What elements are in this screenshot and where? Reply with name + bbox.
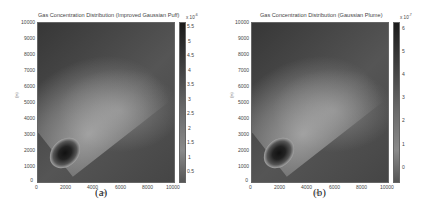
y-tick: 9000 (223, 35, 249, 41)
colorbar-tick: 4.5 (187, 52, 194, 58)
colorbar-tick: 0 (402, 164, 405, 170)
heatmap-b (251, 22, 389, 183)
x-tick: 0 (35, 184, 38, 190)
y-tick: 6000 (223, 83, 249, 89)
y-tick: 10000 (9, 19, 35, 25)
y-tick: 3000 (223, 131, 249, 137)
y-tick: 4000 (223, 115, 249, 121)
x-tick: 8000 (142, 184, 153, 190)
y-tick: 2000 (223, 147, 249, 153)
y-tick: 1000 (223, 163, 249, 169)
colorbar-tick: 5 (402, 48, 405, 54)
y-tick: 8000 (9, 51, 35, 57)
colorbar-tick: 0.5 (187, 168, 194, 174)
colorbar-tick: 3.5 (187, 81, 194, 87)
colorbar-tick: 4 (402, 71, 405, 77)
x-tick: 6000 (329, 184, 340, 190)
colorbar-exponent-a: x 10-6 (186, 13, 198, 20)
y-tick: 5000 (9, 99, 35, 105)
x-tick: 2000 (274, 184, 285, 190)
y-tick: 8000 (223, 51, 249, 57)
sublabel-b: (b) (313, 186, 326, 198)
y-tick: 0 (7, 177, 33, 183)
panel-a: Gas Concentration Distribution (Improved… (0, 0, 212, 212)
y-tick: 7000 (9, 67, 35, 73)
colorbar-a (179, 22, 186, 183)
x-tick: 10000 (380, 184, 394, 190)
y-tick: 7000 (223, 67, 249, 73)
colorbar-tick: 2.5 (187, 110, 194, 116)
y-tick: 5000 (223, 99, 249, 105)
chart-title-b: Gas Concentration Distribution (Gaussian… (260, 12, 383, 18)
x-tick: 10000 (166, 184, 180, 190)
x-tick: 2000 (60, 184, 71, 190)
y-tick: 3000 (9, 131, 35, 137)
colorbar-exponent-b: x 10-7 (400, 13, 412, 20)
colorbar-tick: 1 (188, 154, 191, 160)
colorbar-tick: 5 (188, 38, 191, 44)
y-tick: 10000 (223, 19, 249, 25)
x-tick: 8000 (356, 184, 367, 190)
colorbar-b (393, 22, 400, 183)
x-tick: 0 (249, 184, 252, 190)
colorbar-tick: 6 (402, 25, 405, 31)
x-tick: 6000 (115, 184, 126, 190)
colorbar-tick: 3 (402, 94, 405, 100)
colorbar-tick: 4 (188, 67, 191, 73)
y-axis-label: (m) (15, 92, 19, 97)
colorbar-tick: 1.5 (187, 139, 194, 145)
y-tick: 1000 (9, 163, 35, 169)
sublabel-a: (a) (95, 186, 107, 198)
colorbar-tick: 2 (188, 125, 191, 131)
chart-title-a: Gas Concentration Distribution (Improved… (38, 12, 179, 18)
y-tick: 4000 (9, 115, 35, 121)
y-axis-label: (m) (230, 92, 234, 97)
x-tick: 4000 (301, 184, 312, 190)
y-tick: 0 (222, 177, 248, 183)
y-tick: 9000 (9, 35, 35, 41)
colorbar-tick: 5.5 (187, 23, 194, 29)
colorbar-tick: 2 (402, 117, 405, 123)
colorbar-tick: 1 (402, 141, 405, 147)
y-tick: 2000 (9, 147, 35, 153)
colorbar-tick: 3 (188, 96, 191, 102)
heatmap-a (37, 22, 175, 183)
y-tick: 6000 (9, 83, 35, 89)
panel-b: Gas Concentration Distribution (Gaussian… (213, 0, 425, 212)
